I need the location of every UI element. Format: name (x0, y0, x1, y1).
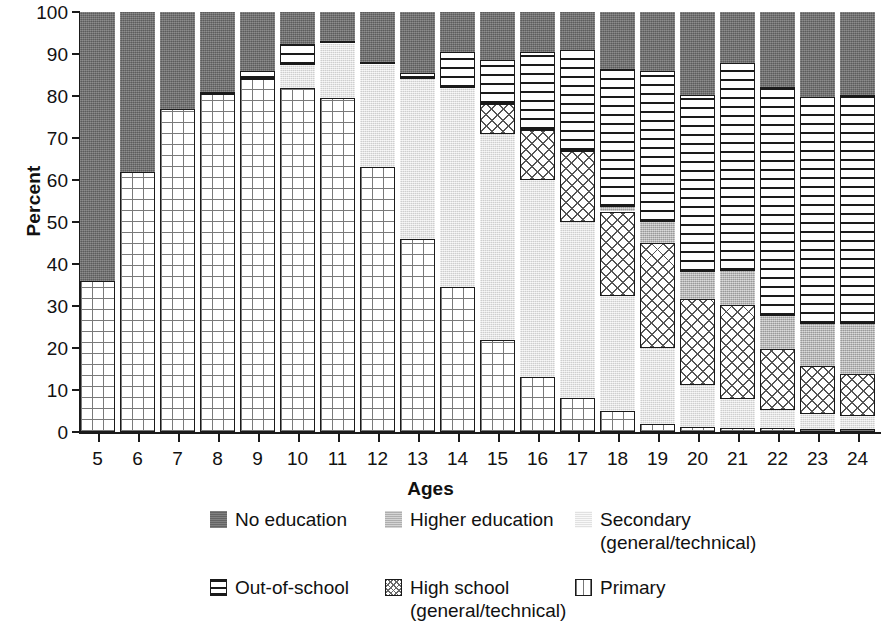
legend-row: No educationHigher educationSecondary (g… (0, 508, 881, 568)
bar-segment-noedu (440, 12, 475, 52)
legend-item-higher[interactable]: Higher education (385, 508, 554, 531)
bar-segment-outschool (400, 73, 435, 79)
y-axis-tick-label: 20 (16, 339, 80, 358)
outschool-swatch-icon (210, 579, 227, 596)
bar-segment-outschool (480, 60, 515, 104)
bar-age-12 (360, 12, 395, 432)
bar-segment-primary (760, 428, 795, 432)
bar-age-22 (760, 12, 795, 432)
x-axis-label: Ages (0, 478, 881, 500)
bar-segment-primary (720, 428, 755, 432)
y-axis-tick-label: 70 (16, 129, 80, 148)
bar-segment-noedu (800, 12, 835, 97)
primary-swatch-icon (575, 579, 592, 596)
bar-segment-primary (240, 79, 275, 432)
bar-segment-noedu (360, 12, 395, 62)
bar-segment-outschool (360, 62, 395, 64)
x-axis-tick-mark (738, 433, 740, 442)
bar-segment-noedu (520, 12, 555, 52)
bar-age-13 (400, 12, 435, 432)
bar-age-21 (720, 12, 755, 432)
y-axis-tick-mark (72, 11, 80, 13)
bar-segment-noedu (320, 12, 355, 41)
bar-segment-highschool (760, 349, 795, 410)
bar-segment-noedu (280, 12, 315, 44)
bar-segment-higher (840, 324, 875, 374)
x-axis-tick-mark (178, 433, 180, 442)
y-axis-tick-label: 50 (16, 213, 80, 232)
bar-segment-secondary (280, 65, 315, 88)
bar-segment-secondary (480, 134, 515, 340)
x-axis-tick-mark (258, 433, 260, 442)
legend-item-outschool[interactable]: Out-of-school (210, 576, 349, 599)
bar-segment-primary (360, 167, 395, 432)
x-axis-tick-mark (818, 433, 820, 442)
higher-swatch-icon (385, 511, 402, 528)
bar-segment-highschool (800, 366, 835, 414)
x-axis-tick-mark (778, 433, 780, 442)
bar-segment-higher (680, 272, 715, 299)
x-axis-tick-label: 24 (833, 448, 881, 470)
x-axis-tick-mark (538, 433, 540, 442)
x-axis-tick-mark (298, 433, 300, 442)
x-axis-line (79, 432, 881, 434)
y-axis-tick-mark (72, 179, 80, 181)
bar-segment-noedu (760, 12, 795, 87)
bar-age-9 (240, 12, 275, 432)
y-axis-tick-label: 80 (16, 87, 80, 106)
bar-segment-outschool (680, 95, 715, 271)
bar-age-18 (600, 12, 635, 432)
legend-item-secondary[interactable]: Secondary (general/technical) (575, 508, 756, 554)
bar-segment-outschool (280, 44, 315, 65)
bar-segment-secondary (800, 414, 835, 429)
x-axis-tick-mark (858, 433, 860, 442)
x-axis-tick-mark (218, 433, 220, 442)
highschool-swatch-icon (385, 579, 402, 596)
legend-item-noedu[interactable]: No education (210, 508, 347, 531)
x-axis-tick-mark (378, 433, 380, 442)
bar-segment-higher (760, 316, 795, 350)
bar-segment-outschool (800, 97, 835, 324)
x-axis-tick-mark (138, 433, 140, 442)
bar-segment-higher (640, 222, 675, 243)
bar-segment-outschool (760, 87, 795, 316)
bar-segment-higher (720, 271, 755, 305)
y-axis-tick-label: 100 (16, 3, 80, 22)
bar-segment-primary (840, 429, 875, 432)
bar-segment-noedu (80, 12, 115, 281)
legend-item-highschool[interactable]: High school (general/technical) (385, 576, 566, 622)
bar-segment-outschool (320, 41, 355, 43)
noedu-swatch-icon (210, 511, 227, 528)
bar-segment-noedu (240, 12, 275, 71)
bar-segment-primary (600, 411, 635, 432)
bar-age-23 (800, 12, 835, 432)
x-axis-tick-mark (338, 433, 340, 442)
bar-segment-higher (800, 324, 835, 366)
bar-segment-secondary (400, 79, 435, 239)
bar-segment-primary (280, 88, 315, 432)
bar-segment-highschool (720, 305, 755, 400)
bar-segment-primary (80, 281, 115, 432)
bar-segment-noedu (560, 12, 595, 50)
legend-label: Higher education (410, 508, 554, 531)
bar-segment-noedu (600, 12, 635, 69)
y-axis-tick-mark (72, 221, 80, 223)
bar-segment-noedu (200, 12, 235, 92)
bar-segment-noedu (840, 12, 875, 95)
bar-segment-noedu (640, 12, 675, 71)
bar-age-15 (480, 12, 515, 432)
legend-item-primary[interactable]: Primary (575, 576, 665, 599)
x-axis-tick-mark (618, 433, 620, 442)
bar-segment-outschool (840, 95, 875, 324)
bar-segment-primary (520, 377, 555, 432)
bar-segment-outschool (600, 69, 635, 208)
bar-segment-noedu (720, 12, 755, 63)
bar-age-19 (640, 12, 675, 432)
bar-segment-primary (480, 340, 515, 432)
legend-label: No education (235, 508, 347, 531)
bar-segment-secondary (560, 222, 595, 398)
bar-segment-highschool (560, 151, 595, 222)
bar-age-5 (80, 12, 115, 432)
bar-segment-secondary (640, 348, 675, 424)
bar-segment-secondary (520, 180, 555, 377)
